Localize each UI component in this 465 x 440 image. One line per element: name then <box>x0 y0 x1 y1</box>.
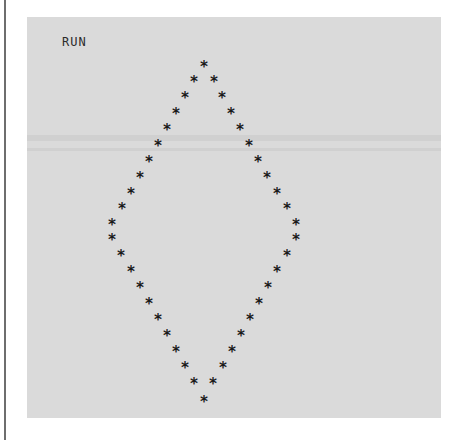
asterisk-glyph: * <box>271 187 283 201</box>
page-left-border <box>4 0 6 440</box>
asterisk-glyph: * <box>125 265 137 279</box>
asterisk-glyph: * <box>244 313 256 327</box>
asterisk-glyph: * <box>226 345 238 359</box>
asterisk-glyph: * <box>271 265 283 279</box>
asterisk-glyph: * <box>217 361 229 375</box>
asterisk-glyph: * <box>253 297 265 311</box>
scanline-artifact <box>27 148 441 151</box>
asterisk-glyph: * <box>234 123 246 137</box>
asterisk-glyph: * <box>281 249 293 263</box>
asterisk-glyph: * <box>115 249 127 263</box>
asterisk-glyph: * <box>290 218 302 232</box>
asterisk-glyph: * <box>134 171 146 185</box>
asterisk-glyph: * <box>170 107 182 121</box>
asterisk-glyph: * <box>188 377 200 391</box>
asterisk-glyph: * <box>116 202 128 216</box>
asterisk-glyph: * <box>281 202 293 216</box>
asterisk-glyph: * <box>290 233 302 247</box>
asterisk-glyph: * <box>125 187 137 201</box>
asterisk-glyph: * <box>235 329 247 343</box>
asterisk-glyph: * <box>208 75 220 89</box>
asterisk-glyph: * <box>134 281 146 295</box>
asterisk-glyph: * <box>216 91 228 105</box>
asterisk-glyph: * <box>198 395 210 409</box>
asterisk-glyph: * <box>207 377 219 391</box>
run-command-text: RUN <box>62 35 87 49</box>
asterisk-glyph: * <box>262 281 274 295</box>
asterisk-glyph: * <box>179 91 191 105</box>
asterisk-glyph: * <box>143 297 155 311</box>
asterisk-glyph: * <box>152 139 164 153</box>
asterisk-glyph: * <box>143 155 155 169</box>
asterisk-glyph: * <box>252 155 264 169</box>
asterisk-glyph: * <box>225 107 237 121</box>
asterisk-glyph: * <box>198 60 210 74</box>
asterisk-glyph: * <box>106 218 118 232</box>
asterisk-glyph: * <box>106 233 118 247</box>
asterisk-glyph: * <box>188 75 200 89</box>
asterisk-glyph: * <box>179 361 191 375</box>
asterisk-glyph: * <box>170 345 182 359</box>
asterisk-glyph: * <box>261 171 273 185</box>
asterisk-glyph: * <box>243 139 255 153</box>
asterisk-glyph: * <box>161 123 173 137</box>
asterisk-glyph: * <box>152 313 164 327</box>
asterisk-glyph: * <box>161 329 173 343</box>
